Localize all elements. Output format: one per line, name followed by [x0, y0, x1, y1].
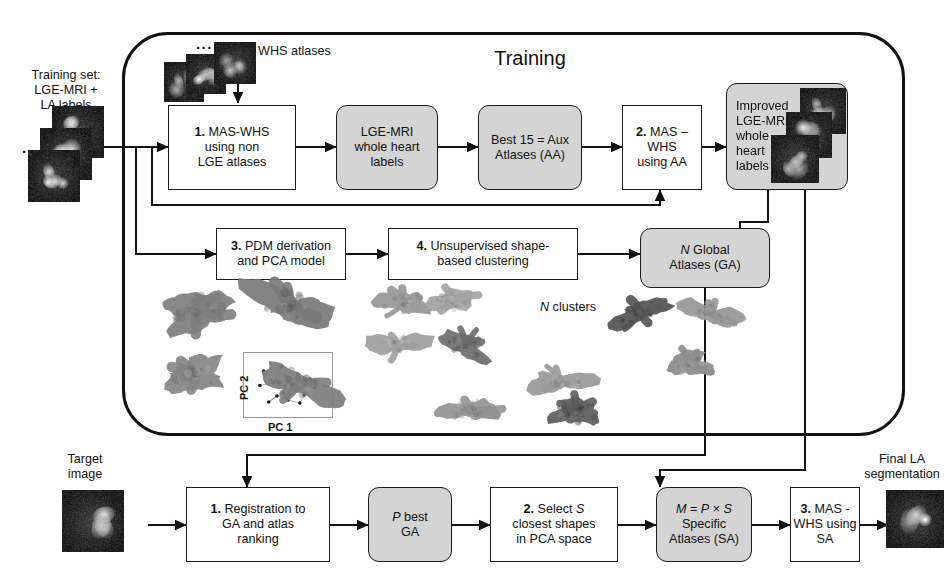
ellipsis-improved-labels: ... — [793, 106, 810, 121]
final-segmentation-label: Final LAsegmentation — [856, 452, 948, 482]
box-specific-atlases[interactable]: M = P × SSpecificAtlases (SA) — [656, 487, 752, 562]
n-clusters-word: clusters — [553, 300, 596, 314]
box-mas-whs-using-sa[interactable]: 3. MAS -WHS usingSA — [790, 487, 860, 562]
box-best-15-aux-atlases[interactable]: Best 15 = AuxAtlases (AA) — [478, 105, 582, 190]
n-clusters-label: N clusters — [540, 300, 660, 315]
box-text: Registration toGA and atlasranking — [222, 502, 306, 546]
box-text: PDM derivationand PCA model — [237, 239, 331, 268]
target-image-label: Targetimage — [38, 452, 132, 482]
box-num: 2. — [524, 502, 535, 516]
ellipsis-whs-atlases: ... — [196, 36, 213, 51]
box-registration-ranking[interactable]: 1. Registration toGA and atlasranking — [186, 487, 330, 562]
thumbnail-target-image — [62, 490, 124, 552]
pca-xlabel: PC 1 — [268, 421, 292, 433]
box-num: 1. — [195, 125, 206, 139]
box-text: P bestGA — [392, 510, 428, 539]
box-pdm-derivation-pca[interactable]: 3. PDM derivationand PCA model — [216, 228, 346, 280]
box-text: ImprovedLGE-MRIwholeheartlabels — [736, 99, 789, 172]
box-text: LGE-MRIwhole heartlabels — [354, 125, 419, 169]
box-text-italic-n: N — [680, 243, 689, 257]
box-num: 4. — [416, 239, 427, 253]
thumbnail-whs-atlas-3 — [214, 42, 256, 84]
pca-ylabel: PC 2 — [238, 376, 250, 400]
box-text: Unsupervised shape-based clustering — [431, 239, 550, 268]
box-text: Best 15 = AuxAtlases (AA) — [491, 133, 569, 162]
thumbnail-final-segmentation — [886, 490, 944, 548]
box-num: 2. — [636, 125, 647, 139]
box-unsupervised-clustering[interactable]: 4. Unsupervised shape-based clustering — [388, 228, 578, 280]
box-text: MAS-WHSusing nonLGE atlases — [198, 125, 270, 169]
whs-atlases-label: WHS atlases — [258, 44, 378, 59]
thumbnail-training-mri-1 — [28, 150, 80, 202]
box-mas-whs-non-lge[interactable]: 1. MAS-WHSusing nonLGE atlases — [168, 105, 296, 190]
box-mas-whs-using-aa[interactable]: 2. MAS – WHSusing AA — [622, 105, 702, 190]
box-select-s-closest[interactable]: 2. Select Sclosest shapesin PCA space — [490, 487, 618, 562]
box-num: 3. — [801, 502, 812, 516]
box-num: 3. — [231, 239, 242, 253]
training-title: Training — [430, 46, 630, 70]
diagram-canvas: 1. MAS-WHSusing nonLGE atlases LGE-MRIwh… — [0, 0, 948, 586]
box-p-best-ga[interactable]: P bestGA — [368, 487, 452, 562]
box-num: 1. — [210, 502, 221, 516]
pca-scatter-plot — [243, 352, 333, 418]
box-n-global-atlases[interactable]: N GlobalAtlases (GA) — [640, 228, 770, 288]
pca-points — [244, 353, 332, 417]
box-text: M = P × SSpecificAtlases (SA) — [669, 502, 739, 546]
box-lge-mri-whole-heart-labels[interactable]: LGE-MRIwhole heartlabels — [336, 105, 438, 190]
